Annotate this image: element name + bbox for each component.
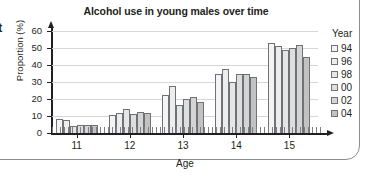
x-minor-tick (228, 127, 229, 133)
x-minor-tick (64, 127, 65, 133)
x-minor-tick (200, 127, 201, 133)
y-tick-mark (47, 133, 51, 134)
x-minor-tick (256, 127, 257, 133)
x-minor-tick (300, 127, 301, 133)
x-tick-label-15: 15 (274, 140, 304, 151)
legend-swatch-02 (331, 97, 338, 104)
x-minor-tick (68, 127, 69, 133)
x-minor-tick (260, 127, 261, 133)
x-minor-tick (132, 127, 133, 133)
x-tick-label-13: 13 (168, 140, 198, 151)
bar-14-98 (229, 82, 236, 133)
x-minor-tick (148, 127, 149, 133)
legend-swatch-98 (331, 71, 338, 78)
x-minor-tick (308, 127, 309, 133)
x-minor-tick (220, 127, 221, 133)
y-tick-mark (47, 65, 51, 66)
x-minor-tick (120, 127, 121, 133)
x-minor-tick (84, 127, 85, 133)
x-tick-mark (77, 133, 78, 138)
x-minor-tick (96, 127, 97, 133)
x-minor-tick (108, 127, 109, 133)
x-tick-label-14: 14 (221, 140, 251, 151)
x-minor-tick (124, 127, 125, 133)
bar-group-age-15 (268, 31, 310, 133)
x-minor-tick (280, 127, 281, 133)
x-minor-tick (264, 127, 265, 133)
x-minor-tick (320, 127, 321, 133)
legend-item-00[interactable]: 00 (331, 81, 377, 94)
y-tick-label: 50 (22, 43, 42, 53)
x-minor-tick (316, 127, 317, 133)
legend-title: Year (331, 28, 377, 39)
legend-label-02: 02 (341, 96, 352, 106)
bar-15-94 (268, 43, 275, 133)
x-tick-mark (130, 133, 131, 138)
x-minor-tick (184, 127, 185, 133)
x-minor-tick (104, 127, 105, 133)
x-minor-tick (152, 127, 153, 133)
y-tick-label: 40 (22, 60, 42, 70)
y-tick-label: 30 (22, 77, 42, 87)
legend-swatch-00 (331, 84, 338, 91)
y-tick-mark (47, 31, 51, 32)
x-minor-tick (304, 127, 305, 133)
x-minor-tick (284, 127, 285, 133)
x-minor-tick (180, 127, 181, 133)
x-minor-tick (216, 127, 217, 133)
x-minor-tick (272, 127, 273, 133)
x-minor-tick (56, 127, 57, 133)
x-minor-tick (204, 127, 205, 133)
x-axis-arrow-icon (327, 130, 334, 136)
legend-label-00: 00 (341, 83, 352, 93)
bar-14-02 (243, 74, 250, 134)
bar-13-96 (169, 86, 176, 133)
x-minor-tick (240, 127, 241, 133)
legend-item-96[interactable]: 96 (331, 55, 377, 68)
x-minor-tick (136, 127, 137, 133)
legend-item-04[interactable]: 04 (331, 107, 377, 120)
x-minor-tick (172, 127, 173, 133)
x-minor-tick (160, 127, 161, 133)
legend-label-94: 94 (341, 44, 352, 54)
x-axis-label: Age (52, 158, 318, 169)
x-minor-tick (52, 127, 53, 133)
legend-item-98[interactable]: 98 (331, 68, 377, 81)
y-tick-label: 60 (22, 26, 42, 36)
x-minor-tick (100, 127, 101, 133)
bar-group-age-11 (56, 31, 98, 133)
bar-15-98 (282, 50, 289, 133)
y-tick-label: 0 (22, 128, 42, 138)
y-tick-label: 10 (22, 111, 42, 121)
x-tick-label-11: 11 (62, 140, 92, 151)
bar-15-02 (296, 45, 303, 133)
bar-15-04 (303, 57, 310, 134)
x-minor-tick (188, 127, 189, 133)
bar-14-94 (215, 74, 222, 133)
x-axis-minor-ticks (52, 127, 324, 133)
chart-title: Alcohol use in young males over time (36, 5, 316, 17)
bar-group-age-14 (215, 31, 257, 133)
x-minor-tick (224, 127, 225, 133)
bar-14-00 (236, 74, 243, 134)
y-tick-label: 20 (22, 94, 42, 104)
x-minor-tick (156, 127, 157, 133)
x-minor-tick (140, 127, 141, 133)
legend-swatch-04 (331, 110, 338, 117)
bar-group-age-13 (162, 31, 204, 133)
x-minor-tick (60, 127, 61, 133)
legend-swatch-96 (331, 58, 338, 65)
legend-swatch-94 (331, 45, 338, 52)
x-minor-tick (192, 127, 193, 133)
bar-15-00 (289, 48, 296, 133)
x-tick-mark (183, 133, 184, 138)
x-tick-mark (289, 133, 290, 138)
x-minor-tick (72, 127, 73, 133)
legend: Year 949698000204 (331, 28, 377, 120)
x-minor-tick (176, 127, 177, 133)
legend-item-02[interactable]: 02 (331, 94, 377, 107)
x-minor-tick (144, 127, 145, 133)
legend-item-94[interactable]: 94 (331, 42, 377, 55)
x-minor-tick (212, 127, 213, 133)
plot-area (52, 31, 318, 133)
